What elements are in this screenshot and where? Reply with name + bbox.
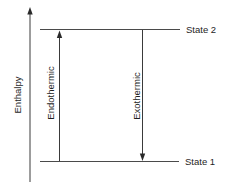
endothermic-label: Endothermic	[45, 66, 56, 119]
axis-label-enthalpy: Enthalpy	[12, 77, 23, 114]
axis-arrowhead-icon	[27, 7, 32, 15]
exothermic-label: Exothermic	[131, 72, 142, 120]
endothermic-arrow	[57, 31, 62, 162]
enthalpy-diagram: Enthalpy Endothermic Exothermic State 2 …	[0, 0, 235, 188]
state-2-label: State 2	[186, 24, 216, 35]
enthalpy-axis	[27, 7, 32, 182]
arrow-up-icon	[57, 31, 62, 39]
state-1-label: State 1	[185, 156, 215, 167]
arrow-down-icon	[140, 154, 145, 162]
